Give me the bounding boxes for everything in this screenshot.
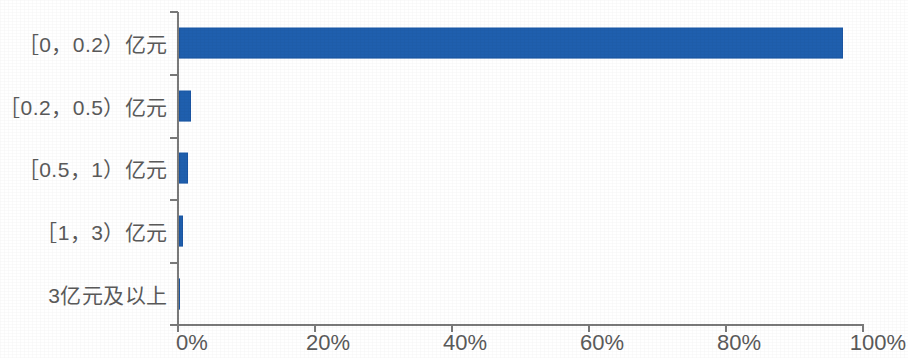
x-axis-tick-label: 80% [717,330,761,356]
bar-row: ［0.5，1）亿元 [0,137,908,200]
y-axis-label: ［0.2，0.5）亿元 [0,91,168,121]
bar-segment[interactable] [179,216,183,247]
x-axis-tick-label: 20% [306,330,350,356]
x-axis-tick-label: 100% [850,330,906,356]
bar-segment[interactable] [179,153,188,184]
y-axis-label: ［0.5，1）亿元 [18,153,168,183]
bar-row: ［0.2，0.5）亿元 [0,75,908,138]
y-axis-label: 3亿元及以上 [48,279,168,309]
x-axis-tick-label: 60% [580,330,624,356]
bar-chart: ［0，0.2）亿元 ［0.2，0.5）亿元 ［0.5，1）亿元 ［1，3）亿元 … [0,0,908,358]
x-axis-tick-label: 0% [176,330,208,356]
bar-row: ［1，3）亿元 [0,200,908,263]
bar-segment[interactable] [179,90,191,121]
bar-segment[interactable] [179,28,843,59]
bar-segment[interactable] [179,278,180,309]
y-axis-label: ［0，0.2）亿元 [18,28,168,58]
bar-row: 3亿元及以上 [0,262,908,325]
y-axis-label: ［1，3）亿元 [36,216,168,246]
bar-row: ［0，0.2）亿元 [0,12,908,75]
x-axis-tick-label: 40% [443,330,487,356]
